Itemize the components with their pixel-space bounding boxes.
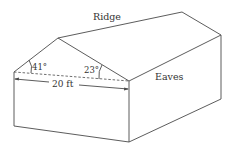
width-dimension-line-right — [79, 85, 128, 89]
eaves-label: Eaves — [155, 71, 184, 82]
right-angle-arc — [99, 65, 102, 79]
right-angle-label: 23° — [84, 65, 99, 75]
arrowhead-right-icon — [124, 87, 129, 90]
width-dimension-line-left — [15, 79, 49, 82]
front-gable — [14, 38, 129, 81]
left-angle-label: 41° — [32, 62, 47, 72]
ridge-label: Ridge — [93, 11, 121, 22]
back-roof-edge — [182, 12, 221, 35]
side-bottom-edge — [129, 99, 221, 142]
front-bottom-edge — [14, 126, 129, 142]
house-roof-diagram: Ridge Eaves 41° 23° 20 ft — [0, 0, 233, 150]
width-label: 20 ft — [52, 79, 74, 89]
arrowhead-left-icon — [14, 77, 19, 80]
